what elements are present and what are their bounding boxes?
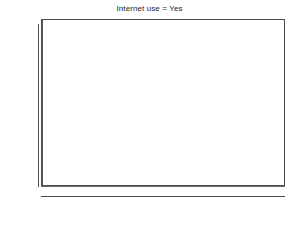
x-axis-line <box>41 196 285 197</box>
bars-layer <box>42 20 284 185</box>
chart-title: Internet use = Yes <box>0 4 299 13</box>
zero-reference-line <box>42 20 43 185</box>
histogram-baseline <box>41 186 285 187</box>
y-axis-line <box>38 24 39 187</box>
plot-area <box>41 19 285 186</box>
histogram-figure: Internet use = Yes <box>0 0 299 226</box>
